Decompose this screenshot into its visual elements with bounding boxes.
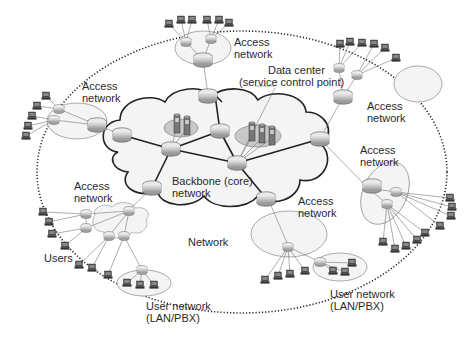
- access-right-top-ellipse: [394, 66, 442, 102]
- label-access-right-top: Access network: [367, 100, 406, 124]
- label-access-lower-center: Access network: [298, 195, 337, 219]
- label-user-network-right: User network (LAN/PBX): [330, 288, 395, 312]
- label-access-left: Access network: [82, 80, 121, 104]
- label-backbone: Backbone (core) network: [172, 175, 253, 199]
- label-network: Network: [188, 236, 228, 248]
- label-users: Users: [44, 252, 73, 264]
- label-access-top: Access network: [234, 36, 273, 60]
- label-data-center-sub: (service control point): [239, 76, 344, 88]
- label-access-lower-left: Access network: [74, 180, 113, 204]
- label-data-center: Data center: [268, 64, 325, 76]
- label-user-network-left: User network (LAN/PBX): [146, 300, 211, 324]
- label-access-right-mid: Access network: [360, 144, 399, 168]
- user-net-right-ellipse: [313, 253, 367, 281]
- datacenter-1-ellipse: [164, 119, 198, 137]
